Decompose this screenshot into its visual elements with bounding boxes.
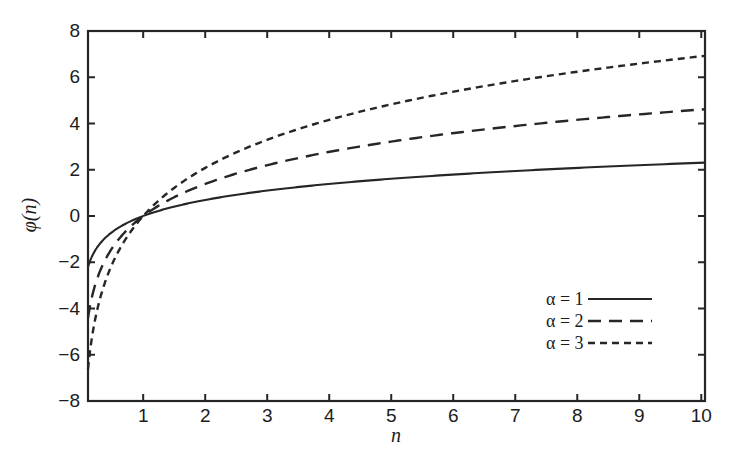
x-tick-label: 7: [510, 405, 521, 427]
legend-swatch-alpha-2: [588, 314, 652, 328]
legend-item: α = 3: [546, 332, 652, 354]
curve-alpha-2: [88, 109, 705, 318]
curve-alpha-1: [88, 163, 705, 267]
x-tick-label: 4: [324, 405, 335, 427]
legend-swatch-alpha-3: [588, 336, 652, 350]
x-tick-label: 6: [448, 405, 459, 427]
legend-label-alpha-2: α = 2: [546, 311, 584, 332]
x-tick-label: 9: [634, 405, 645, 427]
y-tick-label: 4: [44, 113, 80, 135]
y-tick-label: 8: [44, 20, 80, 42]
y-axis-title: φ(n): [18, 198, 41, 232]
legend-item: α = 1: [546, 288, 652, 310]
legend-label-alpha-1: α = 1: [546, 289, 584, 310]
legend-swatch-alpha-1: [588, 292, 652, 306]
y-tick-label: −4: [44, 298, 80, 320]
y-tick-label: 6: [44, 66, 80, 88]
figure-container: 86420−2−4−6−8 12345678910 n φ(n) α = 1 α…: [0, 0, 744, 456]
y-tick-label: −8: [44, 390, 80, 412]
x-tick-label: 1: [138, 405, 149, 427]
legend: α = 1 α = 2 α = 3: [546, 288, 652, 354]
y-tick-label: 0: [44, 205, 80, 227]
x-tick-label: 10: [691, 405, 712, 427]
plot-area: [0, 0, 744, 456]
legend-item: α = 2: [546, 310, 652, 332]
y-tick-label: 2: [44, 159, 80, 181]
y-tick-label: −2: [44, 251, 80, 273]
x-axis-title: n: [391, 424, 401, 447]
legend-label-alpha-3: α = 3: [546, 333, 584, 354]
y-tick-label: −6: [44, 344, 80, 366]
x-tick-label: 2: [200, 405, 211, 427]
x-tick-label: 3: [262, 405, 273, 427]
x-tick-label: 8: [572, 405, 583, 427]
